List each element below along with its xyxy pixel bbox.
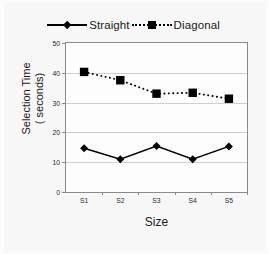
legend-swatch-straight-icon [47, 18, 87, 32]
data-point-straight-S5 [225, 142, 233, 150]
data-point-diagonal-S3 [152, 89, 160, 97]
data-point-diagonal-S4 [189, 89, 197, 97]
y-axis-title-line2: ( seconds) [32, 29, 45, 169]
data-series-layer [66, 43, 247, 192]
data-point-diagonal-S5 [225, 95, 233, 103]
data-point-straight-S1 [80, 144, 88, 152]
data-point-straight-S3 [153, 142, 161, 150]
legend-swatch-diagonal-icon [132, 18, 172, 32]
x-axis-title: Size [65, 215, 248, 229]
legend-label-diagonal: Diagonal [172, 19, 222, 31]
legend-entry-straight: Straight [47, 18, 131, 32]
chart-figure: Straight Diagonal 01020304050S1S2S3S4S5 … [0, 0, 269, 254]
legend-label-straight: Straight [87, 19, 131, 31]
diamond-marker-icon [63, 20, 72, 29]
y-axis-title: Selection Time ( seconds) [20, 29, 45, 169]
plot-area [65, 42, 248, 193]
data-point-diagonal-S2 [116, 76, 124, 84]
data-point-straight-S4 [189, 155, 197, 163]
square-marker-icon [148, 21, 156, 29]
y-axis-title-line1: Selection Time [20, 29, 33, 169]
data-point-diagonal-S1 [80, 68, 88, 76]
data-point-straight-S2 [116, 155, 124, 163]
legend-entry-diagonal: Diagonal [132, 18, 222, 32]
